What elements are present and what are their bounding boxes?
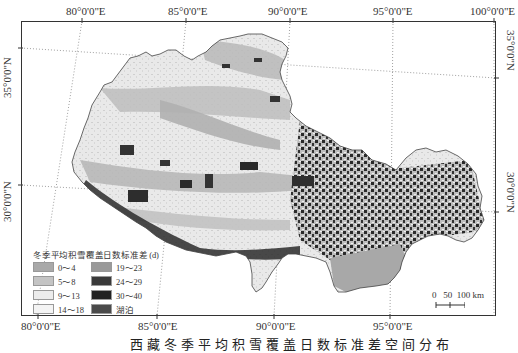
legend-item-30-40: 30～40: [91, 290, 161, 300]
legend-label: 24～29: [116, 275, 142, 287]
legend-swatch: [33, 290, 54, 300]
scale-label-100: 100 km: [457, 290, 484, 300]
legend-label: 9～13: [58, 289, 80, 301]
legend-label: 19～23: [116, 261, 142, 273]
legend-swatch: [91, 262, 112, 272]
legend-label: 5～8: [58, 275, 76, 287]
legend-item-19-23: 19～23: [91, 262, 161, 272]
scale-bar: 0 50 100 km: [432, 290, 484, 310]
scale-label-50: 50: [443, 290, 452, 300]
legend-item-5-8: 5～8: [33, 276, 88, 286]
legend: 冬季平均积雪覆盖日数标准差 (d) 0～4 19～23 5～8 24～29 9～…: [33, 248, 173, 314]
scale-label-0: 0: [432, 290, 437, 300]
legend-label: 0～4: [58, 261, 76, 273]
legend-label: 14～18: [58, 303, 84, 315]
legend-swatch: [33, 304, 54, 314]
legend-swatch: [33, 262, 54, 272]
legend-item-9-13: 9～13: [33, 290, 88, 300]
legend-label: 30～40: [116, 289, 142, 301]
legend-swatch: [33, 276, 54, 286]
legend-item-24-29: 24～29: [91, 276, 161, 286]
legend-swatch: [91, 276, 112, 286]
legend-item-0-4: 0～4: [33, 262, 88, 272]
scale-bar-line: [435, 302, 465, 308]
legend-swatch: [91, 290, 112, 300]
legend-title: 冬季平均积雪覆盖日数标准差 (d): [33, 248, 173, 260]
legend-label: 湖泊: [116, 303, 134, 315]
legend-swatch: [91, 304, 112, 314]
legend-item-lake: 湖泊: [91, 304, 161, 314]
figure-caption: 西藏冬季平均积雪覆盖日数标准差空间分布: [130, 334, 453, 353]
legend-item-14-18: 14～18: [33, 304, 88, 314]
